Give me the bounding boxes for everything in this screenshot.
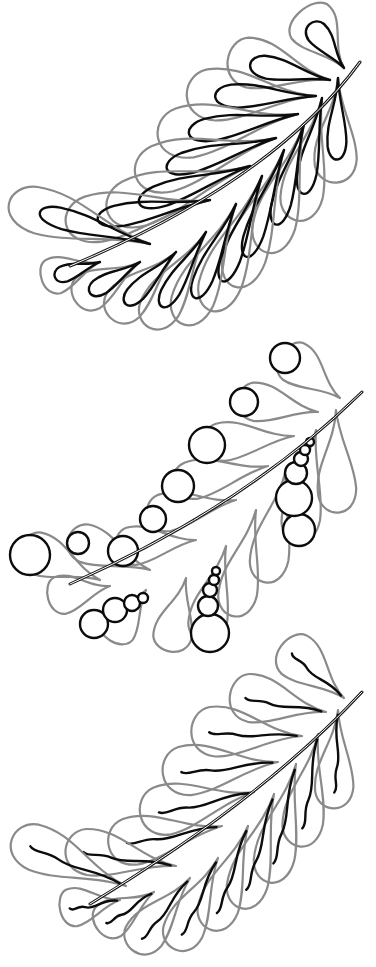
pebble-circle xyxy=(198,596,218,616)
pebble-circle xyxy=(138,593,148,603)
pebble-circle xyxy=(209,575,219,585)
pebble-circle xyxy=(283,514,315,546)
pebble-circle xyxy=(10,535,50,575)
pebble-circle xyxy=(191,614,229,652)
pebble-circle xyxy=(189,427,225,463)
pebble-circle xyxy=(140,506,166,532)
feather-designs-canvas xyxy=(0,0,376,967)
pebble-circle xyxy=(212,567,220,575)
pebble-circle xyxy=(162,470,194,502)
pebble-circle xyxy=(108,536,138,566)
pebble-circle xyxy=(276,480,312,516)
pebble-circle xyxy=(230,388,258,416)
pebble-circle xyxy=(67,532,89,554)
pebble-circle xyxy=(270,343,300,373)
